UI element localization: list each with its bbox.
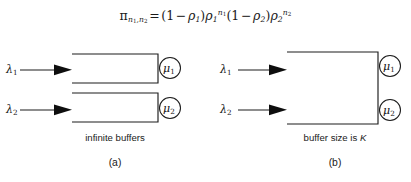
arrival-rate-label-lambda2: λ2 [220, 103, 232, 117]
arrow-head-lambda2 [269, 105, 287, 116]
mu1-index: 1 [170, 67, 175, 76]
arrow-head-lambda2 [54, 105, 72, 116]
lambda1-symbol: λ [220, 63, 227, 76]
lambda2-index: 2 [13, 108, 18, 117]
lambda2-symbol: λ [6, 103, 13, 116]
panel-b-buffer-label-text: buffer size is [304, 132, 360, 143]
service-rate-label-mu2: μ2 [383, 104, 395, 118]
service-rate-label-mu2: μ2 [163, 102, 175, 116]
arrival-rate-label-lambda1: λ1 [6, 63, 18, 77]
panel-b-buffer-label: buffer size is K [275, 132, 395, 143]
queueing-diagram-figure: πn1,n2=(1−ρ1)ρ1n1(1−ρ2)ρ2n2 λ1 λ2 μ1 μ2 … [0, 0, 411, 182]
panel-b-finite-buffer: λ1 λ2 μ1 μ2 buffer size is K (b) [200, 0, 411, 182]
arrow-head-lambda1 [269, 65, 287, 76]
mu2-index: 2 [170, 107, 175, 116]
buffer-rect-2 [72, 93, 158, 122]
arrival-rate-label-lambda1: λ1 [220, 63, 232, 77]
buffer-rect-shared [287, 52, 378, 124]
panel-b-caption: (b) [280, 157, 390, 168]
panel-b-graphics [200, 0, 411, 182]
panel-a-caption: (a) [60, 157, 170, 168]
panel-a-infinite-buffers: λ1 λ2 μ1 μ2 infinite buffers (a) [0, 0, 200, 182]
arrival-rate-label-lambda2: λ2 [6, 103, 18, 117]
panel-a-graphics [0, 0, 200, 182]
buffer-rect-1 [72, 54, 158, 83]
service-rate-label-mu1: μ1 [383, 60, 395, 74]
lambda2-symbol: λ [220, 103, 227, 116]
panel-a-buffer-label: infinite buffers [55, 132, 175, 143]
lambda1-index: 1 [227, 68, 232, 77]
service-rate-label-mu1: μ1 [163, 62, 175, 76]
mu2-index: 2 [390, 109, 395, 118]
arrow-head-lambda1 [54, 65, 72, 76]
lambda1-symbol: λ [6, 63, 13, 76]
panel-b-buffer-capacity-symbol: K [360, 132, 366, 143]
lambda1-index: 1 [13, 68, 18, 77]
mu1-index: 1 [390, 65, 395, 74]
lambda2-index: 2 [227, 108, 232, 117]
